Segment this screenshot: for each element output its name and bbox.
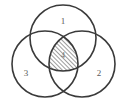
label-top-circle: 1	[61, 16, 66, 26]
label-bottom-left-circle: 3	[24, 68, 29, 78]
label-center-intersection: 4	[61, 51, 65, 60]
label-bottom-right-circle: 2	[97, 68, 102, 78]
venn-diagram-svg: 1 3 2 4	[0, 0, 127, 103]
venn-diagram-figure: 1 3 2 4	[0, 0, 127, 103]
